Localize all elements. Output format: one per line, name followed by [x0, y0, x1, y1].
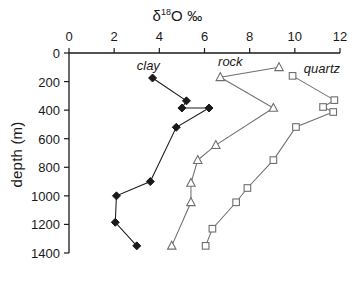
- data-point-rock: [187, 198, 195, 206]
- data-point-quartz: [330, 109, 337, 116]
- data-series-group: [111, 63, 337, 250]
- data-point-clay: [182, 97, 190, 105]
- data-point-rock: [269, 103, 277, 111]
- data-point-clay: [149, 74, 157, 82]
- series-label-quartz: quartz: [304, 61, 340, 76]
- data-point-clay: [178, 104, 186, 112]
- data-point-quartz: [244, 185, 251, 192]
- data-point-quartz: [293, 124, 300, 131]
- data-point-rock: [168, 241, 176, 249]
- x-axis-tick-label: 10: [288, 29, 302, 44]
- data-point-quartz: [320, 104, 327, 111]
- x-axis-tick-label: 6: [201, 29, 208, 44]
- y-axis-tick-label: 0: [0, 46, 60, 61]
- data-point-quartz: [331, 97, 338, 104]
- series-rock: [168, 63, 284, 249]
- y-axis-tick-label: 1200: [0, 217, 60, 232]
- y-axis-ticks: [64, 53, 69, 253]
- data-point-clay: [112, 192, 120, 200]
- data-point-clay: [146, 178, 154, 186]
- data-point-clay: [205, 104, 213, 112]
- x-axis-ticks: [69, 48, 340, 53]
- series-line-rock: [172, 67, 279, 246]
- y-axis-tick-label: 600: [0, 131, 60, 146]
- oxygen-isotope-depth-profile-chart: δ18O ‰ depth (m) 024681012 0200400600800…: [0, 0, 355, 282]
- data-point-quartz: [209, 225, 216, 232]
- data-point-quartz: [233, 199, 240, 206]
- x-axis-tick-label: 2: [111, 29, 118, 44]
- y-axis-tick-label: 1000: [0, 188, 60, 203]
- y-axis-tick-label: 400: [0, 103, 60, 118]
- data-point-rock: [193, 156, 201, 164]
- data-point-rock: [187, 178, 195, 186]
- x-axis-tick-label: 4: [156, 29, 163, 44]
- data-point-quartz: [289, 73, 296, 80]
- series-label-clay: clay: [137, 58, 160, 73]
- x-axis-tick-label: 8: [246, 29, 253, 44]
- axes: [69, 53, 340, 253]
- y-axis-tick-label: 1400: [0, 246, 60, 261]
- data-point-quartz: [202, 243, 209, 250]
- data-point-rock: [275, 63, 283, 71]
- data-point-rock: [212, 141, 220, 149]
- data-point-clay: [172, 123, 180, 131]
- data-point-quartz: [270, 157, 277, 164]
- series-label-rock: rock: [218, 54, 243, 69]
- y-axis-tick-label: 800: [0, 160, 60, 175]
- y-axis-tick-label: 200: [0, 74, 60, 89]
- x-axis-tick-label: 12: [333, 29, 347, 44]
- x-axis-tick-label: 0: [65, 29, 72, 44]
- series-quartz: [202, 73, 337, 250]
